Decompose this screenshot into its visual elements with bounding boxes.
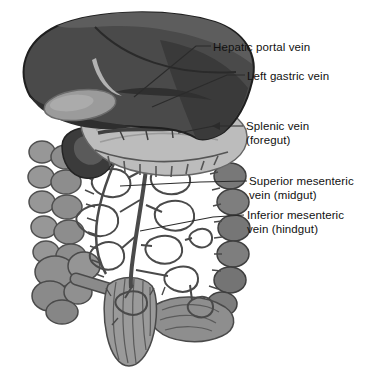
- label-line: vein (hindgut): [247, 222, 344, 236]
- label-line: vein (midgut): [249, 188, 354, 202]
- figure-hepatic-portal-system: Hepatic portal vein Left gastric vein Sp…: [0, 0, 375, 390]
- label-line: Hepatic portal vein: [213, 40, 310, 54]
- label-inferior-mesenteric-vein: Inferior mesenteric vein (hindgut): [247, 208, 344, 236]
- liver: [24, 12, 254, 139]
- label-line: Splenic vein: [246, 119, 309, 133]
- label-line: Inferior mesenteric: [247, 208, 344, 222]
- label-line: Left gastric vein: [247, 69, 329, 83]
- label-line: Superior mesenteric: [249, 174, 354, 188]
- label-superior-mesenteric-vein: Superior mesenteric vein (midgut): [249, 174, 354, 202]
- label-hepatic-portal-vein: Hepatic portal vein: [213, 40, 310, 54]
- label-splenic-vein: Splenic vein (foregut): [246, 119, 309, 147]
- label-left-gastric-vein: Left gastric vein: [247, 69, 329, 83]
- label-line: (foregut): [246, 133, 309, 147]
